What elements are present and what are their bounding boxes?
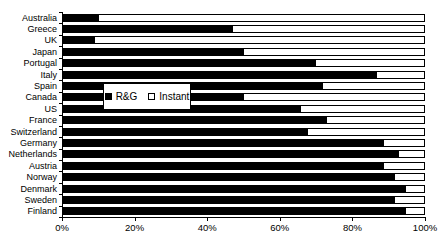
- category-label: Sweden: [0, 195, 57, 204]
- bar-segment-rg: [63, 129, 308, 135]
- stacked-bar: [62, 59, 425, 67]
- bar-row: Netherlands: [0, 149, 425, 160]
- bar-row: Switzerland: [0, 126, 425, 137]
- category-label: Australia: [0, 13, 57, 22]
- bar-row: Austria: [0, 160, 425, 171]
- stacked-bar: [62, 48, 425, 56]
- bar-segment-rg: [63, 117, 327, 123]
- bar-row: Denmark: [0, 183, 425, 194]
- category-label: Spain: [0, 82, 57, 91]
- bar-segment-rg: [63, 186, 406, 192]
- x-axis-tick: [207, 218, 208, 221]
- legend-item-instant: Instant: [148, 91, 189, 102]
- x-axis-tick-label: 0%: [55, 222, 69, 233]
- bar-row: Sweden: [0, 194, 425, 205]
- bar-row: Italy: [0, 69, 425, 80]
- bar-row: Spain: [0, 80, 425, 91]
- x-axis-tick-label: 60%: [270, 222, 289, 233]
- bar-row: US: [0, 103, 425, 114]
- y-axis-tick: [59, 160, 62, 161]
- y-axis-tick: [59, 126, 62, 127]
- y-axis-tick: [59, 183, 62, 184]
- y-axis-tick: [59, 69, 62, 70]
- x-axis-tick: [352, 218, 353, 221]
- y-axis-tick: [59, 35, 62, 36]
- y-axis-tick: [59, 115, 62, 116]
- x-axis-tick: [280, 218, 281, 221]
- category-label: Finland: [0, 207, 57, 216]
- stacked-bar: [62, 139, 425, 147]
- y-axis-tick: [59, 137, 62, 138]
- stacked-bar-chart: AustraliaGreeceUKJapanPortugalItalySpain…: [0, 0, 446, 241]
- stacked-bar: [62, 14, 425, 22]
- bar-row: UK: [0, 35, 425, 46]
- x-axis-line: [59, 217, 426, 218]
- x-axis-tick: [425, 218, 426, 221]
- x-axis-tick-label: 80%: [343, 222, 362, 233]
- stacked-bar: [62, 150, 425, 158]
- stacked-bar: [62, 173, 425, 181]
- bar-row: Norway: [0, 171, 425, 182]
- stacked-bar: [62, 71, 425, 79]
- bar-segment-rg: [63, 49, 244, 55]
- y-axis-tick: [59, 46, 62, 47]
- x-axis-tick-label: 20%: [125, 222, 144, 233]
- category-label: Austria: [0, 161, 57, 170]
- bar-segment-rg: [63, 174, 395, 180]
- category-label: France: [0, 116, 57, 125]
- x-axis-tick: [62, 218, 63, 221]
- y-axis-tick: [59, 80, 62, 81]
- legend-item-rg: R&G: [105, 91, 138, 102]
- stacked-bar: [62, 116, 425, 124]
- stacked-bar: [62, 25, 425, 33]
- stacked-bar: [62, 36, 425, 44]
- category-label: Italy: [0, 70, 57, 79]
- category-label: Netherlands: [0, 150, 57, 159]
- category-label: Greece: [0, 25, 57, 34]
- stacked-bar: [62, 207, 425, 215]
- category-label: Portugal: [0, 59, 57, 68]
- bar-segment-rg: [63, 151, 399, 157]
- category-label: UK: [0, 36, 57, 45]
- category-label: Denmark: [0, 184, 57, 193]
- bar-row: France: [0, 115, 425, 126]
- y-axis-tick: [59, 103, 62, 104]
- legend-label-rg: R&G: [116, 91, 138, 102]
- category-label: Japan: [0, 47, 57, 56]
- y-axis-tick: [59, 12, 62, 13]
- bar-segment-rg: [63, 197, 395, 203]
- bar-segment-rg: [63, 15, 99, 21]
- y-axis-tick: [59, 23, 62, 24]
- bar-segment-rg: [63, 208, 406, 214]
- stacked-bar: [62, 185, 425, 193]
- y-axis-tick: [59, 206, 62, 207]
- x-axis-tick-label: 100%: [413, 222, 437, 233]
- y-axis-tick: [59, 92, 62, 93]
- bar-row: Finland: [0, 206, 425, 217]
- category-label: Canada: [0, 93, 57, 102]
- bar-row: Japan: [0, 46, 425, 57]
- y-axis-tick: [59, 149, 62, 150]
- legend: R&G Instant: [103, 83, 191, 110]
- stacked-bar: [62, 196, 425, 204]
- x-axis-tick: [135, 218, 136, 221]
- bar-segment-rg: [63, 83, 323, 89]
- bar-row: Germany: [0, 137, 425, 148]
- plot-area: AustraliaGreeceUKJapanPortugalItalySpain…: [0, 12, 425, 217]
- stacked-bar: [62, 128, 425, 136]
- bar-segment-rg: [63, 60, 316, 66]
- rg-swatch-icon: [105, 93, 112, 100]
- y-axis-tick: [59, 217, 62, 218]
- category-label: Germany: [0, 138, 57, 147]
- y-axis-tick: [59, 58, 62, 59]
- bar-segment-rg: [63, 37, 95, 43]
- stacked-bar: [62, 162, 425, 170]
- bar-segment-rg: [63, 72, 377, 78]
- bar-row: Portugal: [0, 58, 425, 69]
- bar-row: Canada: [0, 92, 425, 103]
- bar-segment-rg: [63, 26, 233, 32]
- category-label: Norway: [0, 173, 57, 182]
- legend-label-instant: Instant: [159, 91, 189, 102]
- instant-swatch-icon: [148, 93, 155, 100]
- bar-segment-rg: [63, 163, 384, 169]
